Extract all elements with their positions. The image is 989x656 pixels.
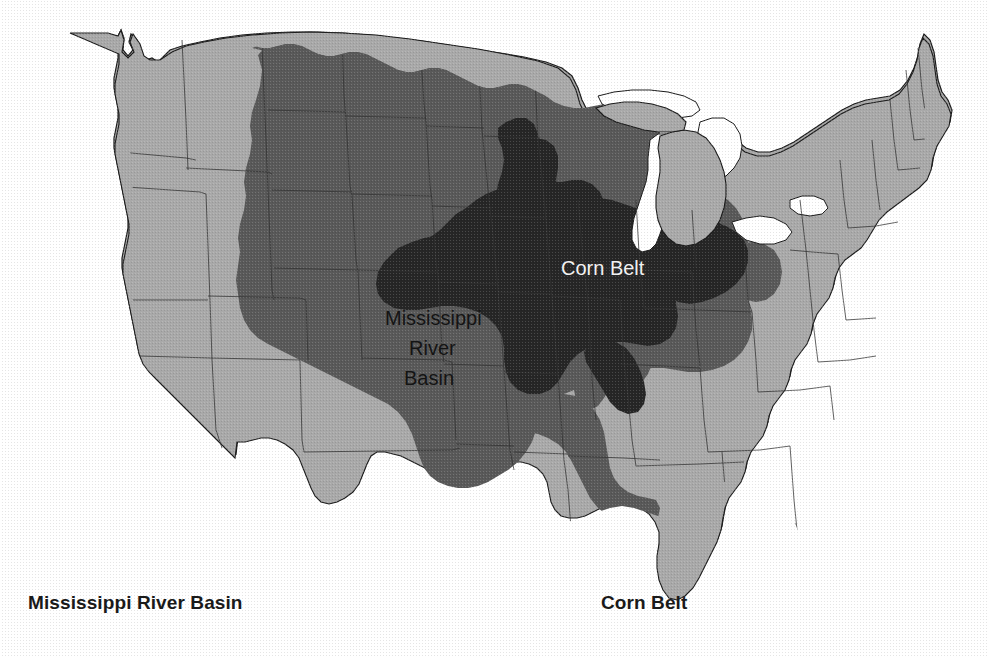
halftone-overlay (0, 0, 989, 656)
map-label-basin-line1: Mississippi (385, 303, 482, 333)
map-label-basin-line3: Basin (404, 363, 482, 393)
legend-label-mississippi-river-basin: Mississippi River Basin (28, 592, 243, 614)
map-label-mississippi-river-basin: Mississippi River Basin (385, 303, 482, 393)
map-figure: Mississippi River Basin Corn Belt Missis… (0, 0, 989, 656)
map-label-basin-line2: River (409, 333, 482, 363)
map-label-corn-belt: Corn Belt (561, 257, 644, 280)
legend-label-corn-belt: Corn Belt (601, 592, 687, 614)
us-thematic-map (0, 0, 989, 656)
